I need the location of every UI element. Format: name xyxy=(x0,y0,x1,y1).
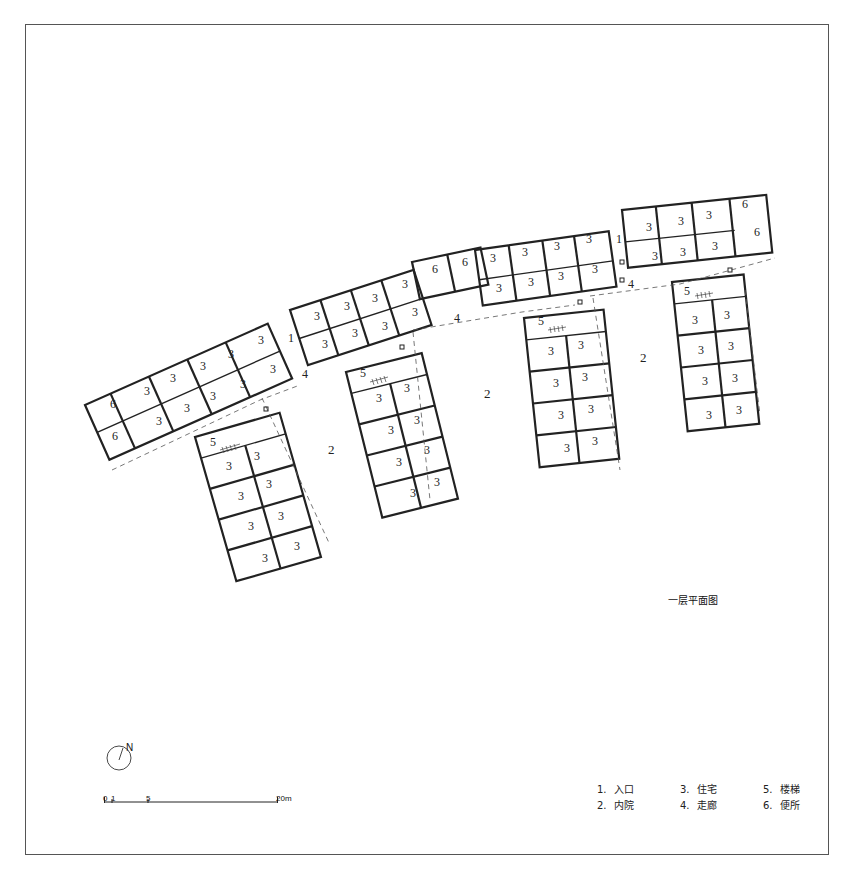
svg-text:3: 3 xyxy=(712,239,718,253)
svg-text:3: 3 xyxy=(382,319,388,333)
svg-text:3: 3 xyxy=(278,509,284,523)
svg-text:3: 3 xyxy=(490,251,496,265)
svg-text:3: 3 xyxy=(558,269,564,283)
legend-item: 6. 便所 xyxy=(763,797,846,813)
svg-text:3: 3 xyxy=(548,344,554,358)
svg-text:3: 3 xyxy=(270,362,276,376)
svg-text:3: 3 xyxy=(582,370,588,384)
svg-text:3: 3 xyxy=(592,434,598,448)
svg-text:5: 5 xyxy=(538,314,544,328)
svg-text:5: 5 xyxy=(684,284,690,298)
svg-text:3: 3 xyxy=(732,371,738,385)
svg-text:6: 6 xyxy=(110,397,116,411)
svg-text:3: 3 xyxy=(372,291,378,305)
svg-text:3: 3 xyxy=(678,214,684,228)
legend-item: 5. 楼梯 xyxy=(763,781,846,797)
svg-text:3: 3 xyxy=(266,477,272,491)
svg-text:3: 3 xyxy=(200,359,206,373)
legend-item: 4. 走廊 xyxy=(680,797,763,813)
svg-text:3: 3 xyxy=(434,475,440,489)
svg-text:3: 3 xyxy=(414,413,420,427)
svg-text:3: 3 xyxy=(262,551,268,565)
svg-text:3: 3 xyxy=(578,338,584,352)
svg-text:5: 5 xyxy=(210,435,216,449)
svg-text:3: 3 xyxy=(184,401,190,415)
svg-text:3: 3 xyxy=(692,313,698,327)
svg-text:6: 6 xyxy=(754,225,760,239)
legend-item: 3. 住宅 xyxy=(680,781,763,797)
svg-text:3: 3 xyxy=(728,339,734,353)
svg-text:3: 3 xyxy=(412,305,418,319)
scale-tick-1: 1 xyxy=(111,794,115,803)
svg-text:3: 3 xyxy=(702,374,708,388)
svg-text:3: 3 xyxy=(402,277,408,291)
scale-bar xyxy=(104,796,284,804)
svg-text:2: 2 xyxy=(328,442,335,457)
south-wings xyxy=(195,274,759,581)
svg-text:3: 3 xyxy=(314,309,320,323)
svg-text:3: 3 xyxy=(410,486,416,500)
north-block xyxy=(85,195,772,460)
svg-text:6: 6 xyxy=(112,429,118,443)
svg-text:3: 3 xyxy=(226,459,232,473)
svg-text:3: 3 xyxy=(352,326,358,340)
svg-text:3: 3 xyxy=(238,489,244,503)
svg-text:6: 6 xyxy=(742,197,748,211)
svg-text:3: 3 xyxy=(156,414,162,428)
north-label: N xyxy=(126,742,133,753)
svg-text:3: 3 xyxy=(588,402,594,416)
svg-text:3: 3 xyxy=(592,262,598,276)
svg-text:3: 3 xyxy=(528,275,534,289)
scale-tick-0: 0 xyxy=(103,794,107,803)
svg-text:1: 1 xyxy=(288,331,294,345)
legend: 1. 入口 3. 住宅 5. 楼梯 2. 内院 4. 走廊 6. 便所 xyxy=(597,781,846,813)
svg-text:3: 3 xyxy=(586,232,592,246)
legend-item: 1. 入口 xyxy=(597,781,680,797)
svg-text:3: 3 xyxy=(322,337,328,351)
stair-icons xyxy=(220,291,713,453)
svg-text:3: 3 xyxy=(736,403,742,417)
drawing-title: 一层平面图 xyxy=(668,592,718,607)
svg-text:4: 4 xyxy=(302,367,308,381)
svg-text:3: 3 xyxy=(646,220,652,234)
svg-text:3: 3 xyxy=(254,449,260,463)
svg-text:2: 2 xyxy=(484,386,491,401)
svg-text:3: 3 xyxy=(344,299,350,313)
svg-text:4: 4 xyxy=(628,277,634,291)
svg-text:3: 3 xyxy=(404,381,410,395)
svg-text:4: 4 xyxy=(454,311,460,325)
svg-text:5: 5 xyxy=(360,366,366,380)
svg-text:3: 3 xyxy=(144,384,150,398)
scale-tick-5: 5 xyxy=(146,794,150,803)
svg-text:2: 2 xyxy=(640,350,647,365)
svg-text:3: 3 xyxy=(706,408,712,422)
svg-text:3: 3 xyxy=(424,443,430,457)
svg-text:3: 3 xyxy=(210,389,216,403)
svg-text:3: 3 xyxy=(376,391,382,405)
svg-text:3: 3 xyxy=(258,333,264,347)
svg-text:3: 3 xyxy=(554,239,560,253)
svg-text:3: 3 xyxy=(564,441,570,455)
svg-text:3: 3 xyxy=(496,281,502,295)
legend-item: 2. 内院 xyxy=(597,797,680,813)
svg-text:3: 3 xyxy=(558,408,564,422)
plan-labels: 6 6 3 3 3 3 3 3 3 3 3 3 1 4 3 3 3 3 3 3 … xyxy=(110,197,760,565)
svg-text:3: 3 xyxy=(522,245,528,259)
svg-text:3: 3 xyxy=(553,376,559,390)
svg-text:3: 3 xyxy=(248,519,254,533)
svg-text:6: 6 xyxy=(432,262,438,276)
svg-text:3: 3 xyxy=(724,308,730,322)
svg-text:3: 3 xyxy=(706,208,712,222)
svg-text:3: 3 xyxy=(396,455,402,469)
svg-text:3: 3 xyxy=(240,377,246,391)
svg-text:6: 6 xyxy=(462,255,468,269)
svg-text:3: 3 xyxy=(388,423,394,437)
svg-text:3: 3 xyxy=(698,343,704,357)
svg-text:3: 3 xyxy=(680,245,686,259)
svg-text:3: 3 xyxy=(652,249,658,263)
svg-text:3: 3 xyxy=(228,347,234,361)
svg-text:3: 3 xyxy=(294,539,300,553)
svg-text:1: 1 xyxy=(616,232,622,246)
svg-text:3: 3 xyxy=(170,371,176,385)
scale-tick-20m: 20m xyxy=(276,794,292,803)
